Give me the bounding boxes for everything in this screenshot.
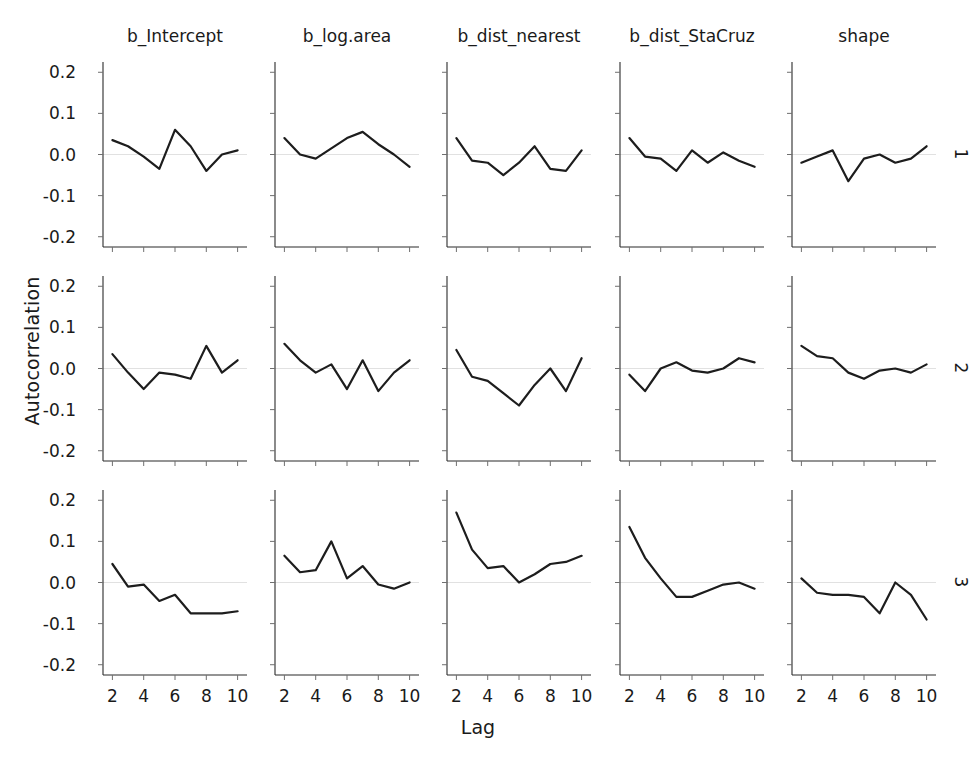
x-tick-label: 2 xyxy=(443,686,469,706)
panel-b-intercept-row-1 xyxy=(97,62,247,253)
x-tick-label: 4 xyxy=(131,686,157,706)
panel-b-dist-nearest-row-2 xyxy=(441,276,591,467)
column-header-shape: shape xyxy=(762,26,966,46)
y-tick-label: 0.0 xyxy=(20,359,76,379)
x-tick-label: 2 xyxy=(616,686,642,706)
y-tick-label: -0.1 xyxy=(20,614,76,634)
y-tick-label: -0.2 xyxy=(20,441,76,461)
panel-b-dist-nearest-row-1 xyxy=(441,62,591,253)
panel-b-intercept-row-2 xyxy=(97,276,247,467)
series-line xyxy=(456,350,581,406)
y-tick-label: 0.0 xyxy=(20,145,76,165)
y-tick-column-row-2: -0.2-0.10.00.10.2 xyxy=(18,276,76,461)
y-tick-label: 0.1 xyxy=(20,531,76,551)
x-axis-title: Lag xyxy=(0,716,956,738)
series-line xyxy=(629,527,754,597)
series-line xyxy=(284,132,409,167)
x-tick-label: 2 xyxy=(788,686,814,706)
row-strip-label-2: 2 xyxy=(951,355,971,381)
row-strip-label-3: 3 xyxy=(951,569,971,595)
panel-b-log-area-row-1 xyxy=(269,62,419,253)
y-tick-label: 0.0 xyxy=(20,573,76,593)
x-tick-label: 6 xyxy=(162,686,188,706)
x-tick-label: 8 xyxy=(193,686,219,706)
x-tick-label: 2 xyxy=(99,686,125,706)
x-tick-label: 10 xyxy=(225,686,251,706)
series-line xyxy=(284,541,409,588)
y-tick-label: -0.2 xyxy=(20,655,76,675)
panel-shape-row-2 xyxy=(786,276,936,467)
panel-b-log-area-row-2 xyxy=(269,276,419,467)
x-tick-label: 10 xyxy=(742,686,768,706)
y-tick-label: 0.2 xyxy=(20,276,76,296)
x-tick-label: 6 xyxy=(851,686,877,706)
x-tick-label: 8 xyxy=(882,686,908,706)
x-tick-label: 10 xyxy=(569,686,595,706)
panel-b-dist-stacruz-row-2 xyxy=(614,276,764,467)
x-tick-label: 6 xyxy=(334,686,360,706)
series-line xyxy=(801,146,926,181)
panel-b-dist-stacruz-row-3 xyxy=(614,490,764,681)
x-tick-label: 10 xyxy=(397,686,423,706)
series-line xyxy=(456,138,581,175)
y-tick-column-row-1: -0.2-0.10.00.10.2 xyxy=(18,62,76,247)
x-tick-label: 4 xyxy=(820,686,846,706)
series-line xyxy=(112,346,237,389)
y-tick-column-row-3: -0.2-0.10.00.10.2 xyxy=(18,490,76,675)
y-tick-label: 0.1 xyxy=(20,317,76,337)
x-tick-label: 8 xyxy=(365,686,391,706)
x-tick-label: 10 xyxy=(914,686,940,706)
row-strip-label-1: 1 xyxy=(951,141,971,167)
panel-b-dist-nearest-row-3 xyxy=(441,490,591,681)
x-tick-label: 2 xyxy=(271,686,297,706)
series-line xyxy=(629,358,754,391)
x-tick-label: 6 xyxy=(679,686,705,706)
x-tick-label: 4 xyxy=(303,686,329,706)
x-tick-label: 6 xyxy=(506,686,532,706)
series-line xyxy=(801,578,926,619)
x-tick-label: 4 xyxy=(648,686,674,706)
series-line xyxy=(801,346,926,379)
y-tick-label: 0.2 xyxy=(20,62,76,82)
series-line xyxy=(112,130,237,171)
series-line xyxy=(456,513,581,583)
x-tick-label: 4 xyxy=(475,686,501,706)
series-line xyxy=(284,344,409,391)
y-tick-label: -0.1 xyxy=(20,186,76,206)
panel-shape-row-3 xyxy=(786,490,936,681)
y-tick-label: -0.1 xyxy=(20,400,76,420)
y-tick-label: -0.2 xyxy=(20,227,76,247)
y-tick-label: 0.2 xyxy=(20,490,76,510)
x-tick-label: 8 xyxy=(710,686,736,706)
panel-shape-row-1 xyxy=(786,62,936,253)
panel-b-log-area-row-3 xyxy=(269,490,419,681)
panel-b-dist-stacruz-row-1 xyxy=(614,62,764,253)
panel-b-intercept-row-3 xyxy=(97,490,247,681)
y-tick-label: 0.1 xyxy=(20,103,76,123)
x-tick-label: 8 xyxy=(537,686,563,706)
series-line xyxy=(112,564,237,613)
